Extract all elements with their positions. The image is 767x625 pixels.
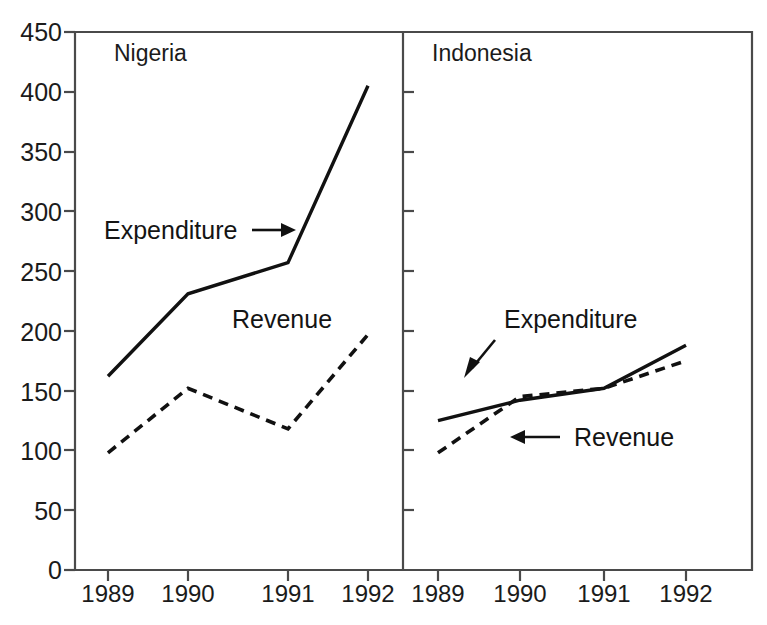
series-line-revenue-nigeria bbox=[108, 335, 368, 453]
x-axis-ticks-indonesia bbox=[438, 570, 686, 581]
y-axis-ticks-indonesia bbox=[403, 92, 414, 510]
y-axis-ticks-nigeria bbox=[64, 32, 75, 570]
panel-frame-nigeria bbox=[75, 32, 403, 570]
annotation-arrow-right-icon bbox=[252, 223, 296, 237]
chart-canvas bbox=[0, 0, 767, 625]
x-axis-ticks-nigeria bbox=[108, 570, 368, 581]
annotation-arrow-left-icon bbox=[510, 430, 560, 444]
series-line-revenue-indonesia bbox=[438, 361, 686, 453]
series-line-expenditure-nigeria bbox=[108, 86, 368, 377]
panel-frame-indonesia bbox=[403, 32, 752, 570]
chart-figure: 450 400 350 300 250 200 150 100 50 0 198… bbox=[0, 0, 767, 625]
annotation-arrow-down-left-icon bbox=[464, 340, 495, 378]
series-line-expenditure-indonesia bbox=[438, 345, 686, 420]
